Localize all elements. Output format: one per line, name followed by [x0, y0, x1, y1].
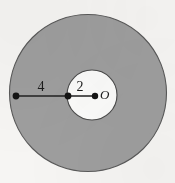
label-center-o: O: [100, 87, 110, 102]
label-inner-segment: 2: [77, 79, 84, 94]
circles-diagram: 4 2 O: [0, 0, 175, 183]
figure-canvas: 4 2 O: [0, 0, 175, 183]
inner-edge-point: [65, 93, 72, 100]
center-point: [92, 93, 98, 99]
outer-edge-point: [13, 93, 20, 100]
label-outer-segment: 4: [38, 79, 45, 94]
